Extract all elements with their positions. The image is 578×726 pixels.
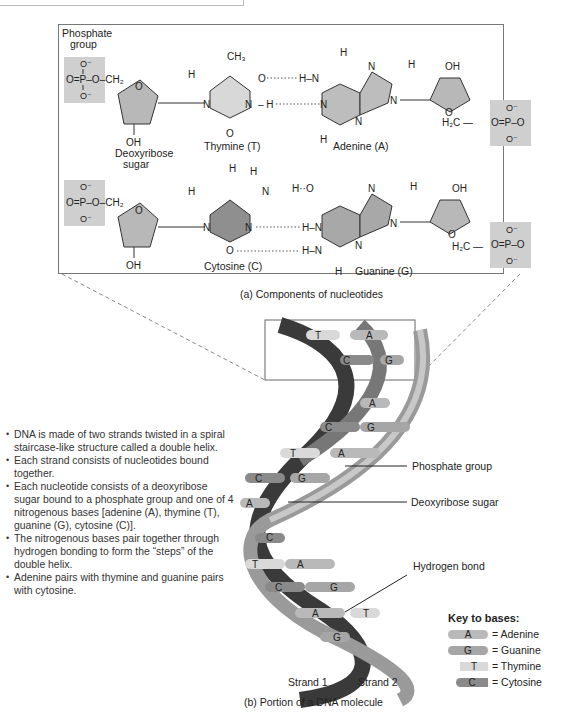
caption-b: (b) Portion of a DNA molecule <box>244 696 383 708</box>
svg-text:N: N <box>203 222 210 233</box>
cytosine-ring <box>210 200 250 242</box>
svg-text:C: C <box>343 355 350 366</box>
svg-text:H: H <box>408 59 415 70</box>
svg-text:H–N: H–N <box>302 222 322 233</box>
svg-text:T: T <box>290 448 296 459</box>
svg-text:O: O <box>226 128 234 139</box>
svg-text:O=P–O–CH₂: O=P–O–CH₂ <box>66 74 124 85</box>
svg-text:N: N <box>203 99 210 110</box>
svg-text:O=P–O–CH₂: O=P–O–CH₂ <box>66 197 124 208</box>
svg-text:H₂C —: H₂C — <box>442 117 473 128</box>
svg-text:G: G <box>298 473 306 484</box>
svg-text:O: O <box>135 81 143 92</box>
svg-text:OH: OH <box>452 183 467 194</box>
svg-text:N: N <box>390 218 397 229</box>
svg-text:O⁻: O⁻ <box>80 182 92 192</box>
svg-text:G: G <box>367 422 375 433</box>
svg-text:C: C <box>325 422 332 433</box>
fact-3: Each nucleotide consists of a deoxyribos… <box>4 480 234 532</box>
svg-text:T: T <box>363 608 369 619</box>
strand-2-label: Strand 2 <box>358 676 398 688</box>
svg-text:A: A <box>312 608 319 619</box>
svg-text:H··O: H··O <box>292 183 314 194</box>
fact-1: DNA is made of two strands twisted in a … <box>4 428 234 454</box>
svg-text:C: C <box>275 582 282 593</box>
callout-phosphate-group: Phosphate group <box>412 460 492 472</box>
svg-text:O⁻: O⁻ <box>80 214 92 224</box>
svg-text:G: G <box>333 632 341 643</box>
guanine-swatch: G <box>448 646 488 655</box>
svg-text:O: O <box>258 73 266 84</box>
svg-text:O⁻: O⁻ <box>506 225 518 235</box>
fact-5: Adenine pairs with thymine and guanine p… <box>4 571 234 597</box>
svg-text:N: N <box>368 61 375 72</box>
svg-text:H: H <box>250 166 257 177</box>
base-key: Key to bases: A = Adenine G = Guanine T … <box>448 612 573 690</box>
svg-text:H: H <box>340 47 347 58</box>
svg-text:H: H <box>229 163 236 174</box>
svg-text:O: O <box>448 229 456 240</box>
svg-text:sugar: sugar <box>123 158 150 170</box>
svg-text:G: G <box>385 355 393 366</box>
key-item-thymine: T = Thymine <box>448 658 573 674</box>
adenine-label: Adenine (A) <box>333 140 388 152</box>
callout-hydrogen-bond: Hydrogen bond <box>413 560 485 572</box>
key-item-cytosine: C = Cytosine <box>448 674 573 690</box>
svg-text:O=P–O: O=P–O <box>491 117 525 128</box>
nucleotide-structures: Phosphate group O⁻ O=P–O–CH₂ O⁻ O OH Deo… <box>0 0 578 300</box>
svg-text:H₂C —: H₂C — <box>452 241 483 252</box>
fact-4: The nitrogenous bases pair together thro… <box>4 532 234 571</box>
svg-text:A: A <box>246 498 253 509</box>
svg-text:N: N <box>262 186 269 197</box>
svg-text:T: T <box>315 330 321 341</box>
svg-text:O=P–O: O=P–O <box>491 239 525 250</box>
svg-text:O: O <box>135 205 143 216</box>
svg-text:C: C <box>266 532 273 543</box>
thymine-label: Thymine (T) <box>204 140 261 152</box>
svg-text:H: H <box>188 186 195 197</box>
svg-text:OH: OH <box>445 61 460 72</box>
svg-text:H: H <box>188 69 195 80</box>
svg-text:O⁻: O⁻ <box>506 134 518 144</box>
adenine-swatch: A <box>448 630 488 639</box>
svg-text:T: T <box>252 559 258 570</box>
svg-text:A: A <box>366 330 373 341</box>
cytosine-swatch: C <box>456 678 488 687</box>
key-item-guanine: G = Guanine <box>448 642 573 658</box>
dna-facts-list: DNA is made of two strands twisted in a … <box>4 428 234 597</box>
svg-text:N: N <box>245 222 252 233</box>
fact-2: Each strand consists of nucleotides boun… <box>4 454 234 480</box>
svg-text:group: group <box>70 38 97 50</box>
svg-text:H–N: H–N <box>299 73 319 84</box>
svg-text:N: N <box>245 99 252 110</box>
svg-text:G: G <box>330 582 338 593</box>
thymine-ring <box>210 76 250 118</box>
svg-text:O⁻: O⁻ <box>506 103 518 113</box>
strand-1-label: Strand 1 <box>288 676 328 688</box>
svg-text:O⁻: O⁻ <box>80 59 92 69</box>
svg-text:A: A <box>338 448 345 459</box>
svg-text:H: H <box>410 181 417 192</box>
key-title: Key to bases: <box>448 612 573 624</box>
svg-text:C: C <box>255 473 262 484</box>
svg-text:N: N <box>355 240 362 251</box>
svg-text:N: N <box>390 95 397 106</box>
svg-text:A: A <box>297 559 304 570</box>
key-item-adenine: A = Adenine <box>448 626 573 642</box>
svg-text:A: A <box>369 398 376 409</box>
svg-text:N: N <box>368 183 375 194</box>
svg-text:N: N <box>355 116 362 127</box>
svg-text:CH₃: CH₃ <box>227 51 246 62</box>
svg-text:O⁻: O⁻ <box>80 91 92 101</box>
svg-text:O: O <box>226 245 234 256</box>
svg-text:N: N <box>320 99 327 110</box>
thymine-swatch: T <box>460 662 488 671</box>
svg-text:H: H <box>320 134 327 145</box>
svg-text:O⁻: O⁻ <box>506 256 518 266</box>
callout-deoxyribose-sugar: Deoxyribose sugar <box>411 496 499 508</box>
svg-text:H–N: H–N <box>302 245 322 256</box>
svg-text:– H: – H <box>258 99 274 110</box>
